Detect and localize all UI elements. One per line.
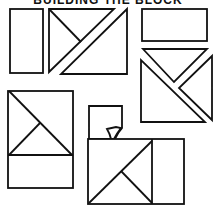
wide-rectangle: [142, 9, 207, 41]
assembled-half-block: [8, 91, 73, 188]
tall-rectangle: [10, 9, 43, 73]
triangle-set-right: [141, 49, 212, 122]
curled-square: [89, 106, 122, 139]
assembled-block: [88, 139, 184, 204]
block-diagram: [0, 0, 216, 213]
split-triangles-top: [49, 9, 127, 74]
